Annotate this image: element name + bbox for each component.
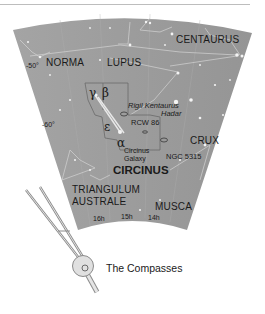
label-beta: β — [102, 87, 109, 99]
label-ra-15h: 15h — [121, 213, 133, 220]
label-epsilon: ε — [104, 121, 110, 133]
label-dec-minus60: -60° — [42, 121, 55, 128]
label-triangulum-2: AUSTRALE — [72, 197, 126, 207]
label-circinus: CIRCINUS — [113, 165, 169, 177]
label-centaurus: CENTAURUS — [176, 35, 239, 45]
label-dec-minus50: -50° — [26, 62, 39, 69]
label-ra-16h: 16h — [93, 215, 105, 222]
illustration-caption: The Compasses — [106, 262, 182, 274]
label-ngc5315: NGC 5315 — [166, 153, 201, 161]
label-musca: MUSCA — [155, 202, 192, 212]
label-triangulum-1: TRIANGULUM — [72, 185, 140, 195]
label-lupus: LUPUS — [107, 58, 141, 68]
label-gamma: γ — [89, 87, 96, 99]
label-circinus-galaxy-1: Circinus — [124, 147, 149, 154]
label-circinus-galaxy-2: Galaxy — [124, 155, 146, 162]
label-crux: CRUX — [190, 136, 219, 146]
label-hadar: Hadar — [161, 110, 181, 118]
label-ra-14h: 14h — [148, 214, 160, 221]
label-norma: NORMA — [46, 58, 84, 68]
label-rcw86: RCW 86 — [131, 119, 159, 127]
